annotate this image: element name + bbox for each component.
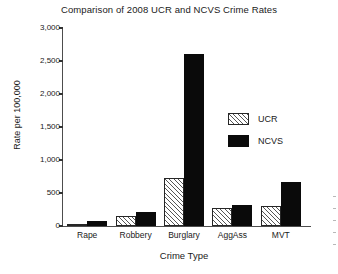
bar-mvt-ncvs (281, 182, 301, 226)
x-axis-title: Crime Type (63, 250, 305, 261)
legend-item-ncvs: NCVS (228, 130, 320, 152)
bar-mvt-ucr (261, 206, 281, 226)
y-axis-tick-label: 1,500 (20, 122, 60, 131)
bar-aggass-ncvs (232, 205, 252, 226)
y-axis-tick-label: 2,500 (20, 56, 60, 65)
y-axis-tick-label: 0 (20, 221, 60, 230)
legend-label-ucr: UCR (258, 114, 278, 124)
bar-aggass-ucr (212, 208, 232, 226)
bar-robbery-ncvs (136, 212, 156, 226)
y-axis-tick-label: 2,000 (20, 89, 60, 98)
edge-artifact (333, 232, 336, 233)
chart-title: Comparison of 2008 UCR and NCVS Crime Ra… (0, 4, 338, 15)
legend-label-ncvs: NCVS (258, 136, 283, 146)
edge-artifact (333, 196, 336, 197)
y-axis-tick-label: 500 (20, 188, 60, 197)
chart-legend: UCR NCVS (228, 108, 320, 152)
edge-artifact (333, 244, 336, 245)
legend-swatch-ucr-icon (228, 113, 249, 125)
legend-swatch-ncvs-icon (228, 135, 249, 147)
bar-robbery-ucr (116, 216, 136, 226)
y-axis-title: Rate per 100,000 (12, 45, 22, 185)
bar-rape-ucr (67, 224, 87, 226)
bar-rape-ncvs (87, 221, 107, 226)
edge-artifact (333, 220, 336, 221)
legend-item-ucr: UCR (228, 108, 320, 130)
bar-chart: Comparison of 2008 UCR and NCVS Crime Ra… (0, 0, 338, 274)
y-axis-tick-label: 3,000 (20, 23, 60, 32)
bar-burglary-ucr (164, 178, 184, 226)
x-axis-line (62, 226, 311, 227)
bar-burglary-ncvs (184, 54, 204, 226)
edge-artifact (333, 208, 336, 209)
x-axis-label-mvt: MVT (247, 230, 315, 240)
y-axis-tick-label: 1,000 (20, 155, 60, 164)
